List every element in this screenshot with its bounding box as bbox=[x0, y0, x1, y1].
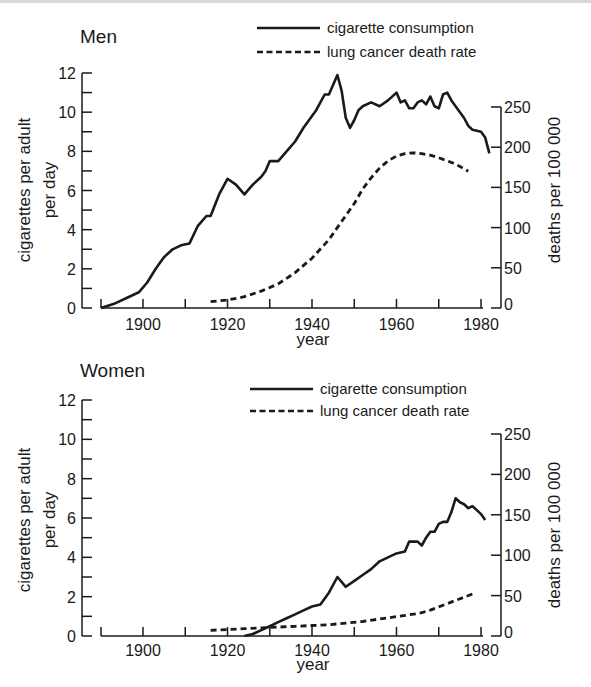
left-tick-label: 12 bbox=[58, 65, 76, 82]
right-tick-label: 150 bbox=[504, 507, 531, 524]
legend-label-death-rate: lung cancer death rate bbox=[327, 43, 476, 60]
x-axis bbox=[101, 299, 483, 308]
right-tick-label: 100 bbox=[504, 547, 531, 564]
right-tick-label: 200 bbox=[504, 466, 531, 483]
right-axis bbox=[491, 434, 501, 636]
left-tick-label: 8 bbox=[67, 143, 76, 160]
x-axis bbox=[101, 627, 483, 636]
panel-title: Women bbox=[80, 360, 145, 381]
left-axis-title-line2: per day bbox=[40, 161, 59, 218]
left-tick-label: 6 bbox=[67, 510, 76, 527]
death-rate-line bbox=[211, 153, 469, 302]
x-tick-label: 1960 bbox=[379, 316, 415, 333]
left-axis-title-line1: cigarettes per adult bbox=[15, 447, 34, 592]
panel-title: Men bbox=[80, 26, 117, 47]
left-tick-label: 0 bbox=[67, 628, 76, 645]
left-tick-label: 6 bbox=[67, 183, 76, 200]
left-axis-title-line1: cigarettes per adult bbox=[15, 117, 34, 262]
right-tick-label: 250 bbox=[504, 426, 531, 443]
right-tick-label: 0 bbox=[504, 296, 513, 313]
right-tick-label: 100 bbox=[504, 220, 531, 237]
figure: Mencigarette consumptionlung cancer deat… bbox=[0, 0, 591, 687]
x-tick-label: 1980 bbox=[463, 642, 499, 659]
left-tick-label: 10 bbox=[58, 431, 76, 448]
right-tick-label: 50 bbox=[504, 260, 522, 277]
right-tick-label: 0 bbox=[504, 624, 513, 641]
x-tick-label: 1920 bbox=[210, 642, 246, 659]
left-axis bbox=[82, 73, 92, 308]
x-axis-title: year bbox=[296, 330, 329, 349]
legend-label-cigarette: cigarette consumption bbox=[320, 380, 467, 397]
legend-label-cigarette: cigarette consumption bbox=[327, 19, 474, 36]
x-tick-label: 1980 bbox=[463, 316, 499, 333]
right-tick-label: 200 bbox=[504, 139, 531, 156]
left-tick-label: 12 bbox=[58, 392, 76, 409]
left-tick-label: 10 bbox=[58, 104, 76, 121]
left-axis bbox=[82, 400, 92, 636]
left-tick-label: 2 bbox=[67, 261, 76, 278]
left-tick-label: 4 bbox=[67, 222, 76, 239]
right-tick-label: 150 bbox=[504, 179, 531, 196]
x-tick-label: 1900 bbox=[125, 316, 161, 333]
chart-panel-women: Womencigarette consumptionlung cancer de… bbox=[15, 360, 564, 674]
left-tick-label: 4 bbox=[67, 549, 76, 566]
left-tick-label: 8 bbox=[67, 471, 76, 488]
legend: cigarette consumptionlung cancer death r… bbox=[257, 19, 476, 60]
cigarette-consumption-line bbox=[244, 498, 485, 636]
right-tick-label: 250 bbox=[504, 99, 531, 116]
legend-label-death-rate: lung cancer death rate bbox=[320, 402, 469, 419]
x-tick-label: 1960 bbox=[379, 642, 415, 659]
x-tick-label: 1900 bbox=[125, 642, 161, 659]
left-tick-label: 0 bbox=[67, 300, 76, 317]
chart-panel-men: Mencigarette consumptionlung cancer deat… bbox=[15, 19, 564, 349]
right-axis bbox=[491, 107, 501, 308]
legend: cigarette consumptionlung cancer death r… bbox=[250, 380, 469, 419]
x-tick-label: 1920 bbox=[210, 316, 246, 333]
right-axis-title: deaths per 100 000 bbox=[545, 462, 564, 609]
left-axis-title-line2: per day bbox=[40, 491, 59, 548]
x-axis-title: year bbox=[296, 655, 329, 674]
right-tick-label: 50 bbox=[504, 588, 522, 605]
left-tick-label: 2 bbox=[67, 589, 76, 606]
right-axis-title: deaths per 100 000 bbox=[545, 117, 564, 264]
death-rate-line bbox=[211, 594, 473, 630]
